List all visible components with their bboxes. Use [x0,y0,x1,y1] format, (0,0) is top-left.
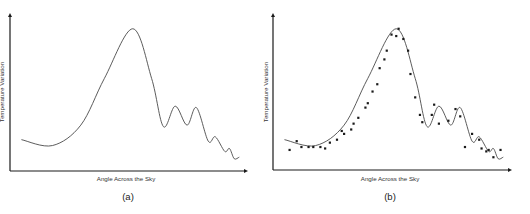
model-curve-a [22,29,239,159]
data-point [402,38,404,40]
x-axis-label-a: Angle Across the Sky [97,175,156,182]
data-point [386,50,388,52]
data-point [433,104,435,106]
data-point [499,149,501,151]
data-point [459,115,461,117]
data-point [357,117,359,119]
data-point [414,96,416,98]
panel-a: Temperature Variation Angle Across the S… [0,15,246,202]
data-point [324,147,326,149]
data-point [371,90,373,92]
x-axis-label-b: Angle Across the Sky [361,175,420,182]
data-point [480,147,482,149]
data-point [454,108,456,110]
data-point [341,130,343,132]
data-point [312,146,314,148]
data-point [367,102,369,104]
data-point [431,114,433,116]
data-point [485,150,487,152]
panel-label-a: (a) [122,191,134,202]
data-point [407,50,409,52]
data-point [350,128,352,130]
data-point [492,156,494,158]
data-point [464,146,466,148]
data-point [296,140,298,142]
data-point [478,139,480,141]
data-point [376,83,378,85]
model-curve-b [285,29,503,159]
data-point [300,146,302,148]
data-point [419,114,421,116]
measurement-points [288,28,501,159]
data-point [383,58,385,60]
panel-label-b: (b) [384,191,396,202]
data-point [390,34,392,36]
data-point [329,142,331,144]
data-point [471,133,473,135]
data-point [421,121,423,123]
data-point [364,107,366,109]
data-point [398,28,400,30]
data-point [488,149,490,151]
figure: Temperature Variation Angle Across the S… [0,0,530,214]
y-axis-label-a: Temperature Variation [0,61,5,122]
data-point [319,146,321,148]
y-axis-label-b: Temperature Variation [262,61,269,122]
data-point [438,123,440,125]
data-point [288,149,290,151]
data-point [395,35,397,37]
data-point [343,133,345,135]
data-point [336,139,338,141]
data-point [352,123,354,125]
data-point [409,73,411,75]
panel-b: Temperature Variation Angle Across the S… [262,15,510,202]
data-point [307,146,309,148]
data-point [447,120,449,122]
data-point [379,67,381,69]
